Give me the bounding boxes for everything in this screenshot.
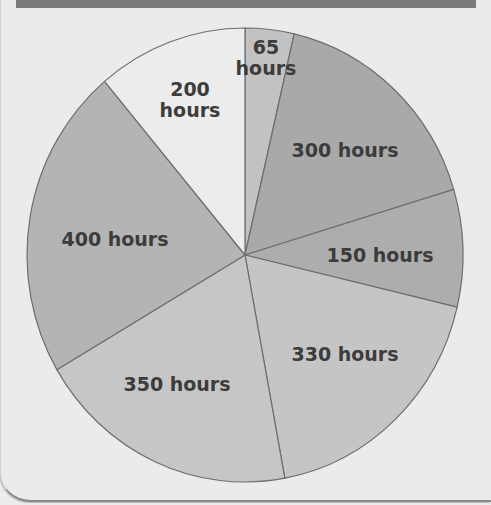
slice-label-330: 330 hours [291,343,398,365]
slice-label-350: 350 hours [123,373,230,395]
slice-label-150: 150 hours [326,244,433,266]
slice-label-300: 300 hours [291,139,398,161]
slice-label-400: 400 hours [61,228,168,250]
